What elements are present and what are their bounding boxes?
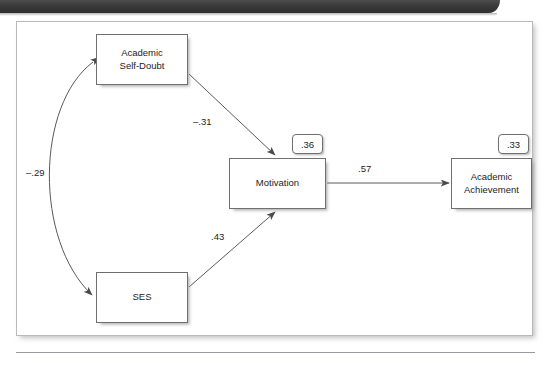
node-academic-achievement[interactable]: Academic Achievement	[451, 158, 532, 209]
r-squared-value-achievement: .33	[507, 139, 520, 150]
bottom-divider-rule	[16, 352, 535, 353]
r-squared-badge-achievement: .33	[498, 134, 529, 154]
coefficient-label-ses-to-motivation: .43	[211, 231, 224, 242]
coefficient-label-self-doubt-ses-covariance: –.29	[26, 167, 45, 178]
node-ses[interactable]: SES	[96, 272, 188, 323]
node-label-academic-self-doubt: Academic Self-Doubt	[120, 47, 165, 72]
path-arrow-ses-to-motivation	[189, 212, 275, 287]
node-motivation[interactable]: Motivation	[229, 158, 326, 209]
path-arrow-self-doubt-to-motivation	[189, 74, 275, 155]
r-squared-value-motivation: .36	[301, 139, 314, 150]
node-label-motivation: Motivation	[256, 177, 299, 190]
r-squared-badge-motivation: .36	[292, 134, 323, 154]
node-academic-self-doubt[interactable]: Academic Self-Doubt	[96, 34, 188, 85]
coefficient-label-self-doubt-to-motivation: –.31	[193, 116, 212, 127]
node-label-academic-achievement: Academic Achievement	[464, 171, 519, 196]
node-label-ses: SES	[132, 291, 151, 304]
coefficient-label-motivation-to-achievement: .57	[358, 163, 371, 174]
path-curve-self-doubt-ses-covariance	[49, 62, 93, 295]
